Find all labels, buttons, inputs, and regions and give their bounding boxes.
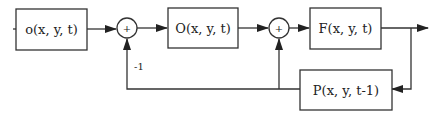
summing-junction-2: +	[269, 18, 289, 38]
gain-label: -1	[134, 61, 144, 72]
block-diagram: o(x, y, t) O(x, y, t) F(x, y, t) P(x, y,…	[0, 0, 445, 117]
arrow-output-to-P	[392, 28, 411, 89]
plus-icon: +	[123, 23, 131, 34]
block-P-label: P(x, y, t-1)	[313, 83, 379, 98]
block-F: F(x, y, t)	[310, 8, 381, 49]
block-P: P(x, y, t-1)	[300, 70, 392, 110]
plus-icon: +	[275, 23, 283, 34]
block-O-label: O(x, y, t)	[175, 21, 231, 36]
block-F-label: F(x, y, t)	[319, 21, 373, 36]
block-o-label: o(x, y, t)	[25, 22, 78, 37]
block-O: O(x, y, t)	[168, 8, 238, 48]
summing-junction-1: +	[117, 18, 137, 38]
block-o: o(x, y, t)	[16, 9, 87, 50]
